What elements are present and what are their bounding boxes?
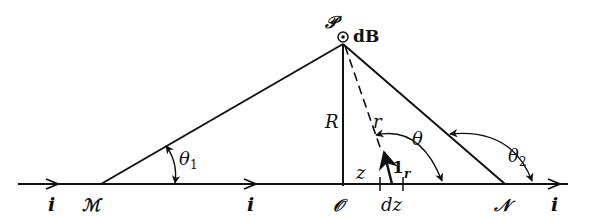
unit-vector-arrow-icon [384, 152, 392, 184]
line-P-N [343, 44, 505, 184]
label-theta2: θ [508, 145, 519, 166]
label-theta1-sub: 1 [190, 158, 198, 172]
label-point-N: 𝒩 [493, 195, 516, 215]
label-dB: dB [353, 26, 379, 46]
label-unit-vector: 1 [392, 157, 404, 177]
label-theta2-sub: 2 [519, 155, 527, 169]
label-current-left: i [48, 193, 55, 215]
label-theta: θ [412, 128, 423, 149]
label-current-right: i [551, 193, 558, 215]
label-theta1: θ [179, 148, 190, 169]
circled-dot-out-of-page-icon [338, 32, 348, 42]
label-point-P: 𝒫 [324, 12, 342, 32]
label-z: z [355, 162, 366, 183]
geometry-lines [101, 44, 505, 184]
label-point-O: 𝒪 [333, 195, 348, 215]
label-point-M: ℳ [82, 195, 103, 215]
label-dz: dz [381, 194, 403, 215]
label-unit-vector-sub: r [404, 167, 412, 181]
biot-savart-diagram: 𝒫 dB i ℳ i 𝒪 dz 𝒩 i R r z 1 r θ 1 θ θ 2 [0, 0, 595, 218]
label-R: R [324, 111, 339, 132]
label-r: r [373, 111, 383, 132]
line-P-M [101, 44, 343, 184]
current-wire [18, 179, 568, 189]
angle-theta1-arc [166, 146, 176, 183]
label-current-mid: i [247, 193, 254, 215]
